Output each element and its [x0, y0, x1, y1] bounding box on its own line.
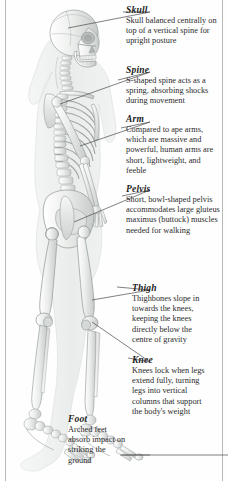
callout-spine: Spine S-shaped spine acts as a spring, a… [126, 65, 220, 107]
callout-pelvis: Pelvis Short, bowl-shaped pelvis accommo… [126, 184, 220, 236]
callout-body-knee: Knees lock when legs extend fully, turni… [132, 366, 208, 417]
callout-body-pelvis: Short, bowl-shaped pelvis accommodates l… [126, 195, 220, 236]
callout-body-skull: Skull balanced centrally on top of a ver… [126, 16, 218, 47]
callout-heading-spine: Spine [126, 65, 220, 75]
callout-body-foot: Arched feet absorb impact on striking th… [68, 425, 126, 466]
callout-heading-knee: Knee [132, 355, 208, 365]
callout-foot: Foot Arched feet absorb impact on striki… [68, 414, 126, 466]
callout-body-thigh: Thighbones slope in towards the knees, k… [132, 294, 204, 345]
callout-body-arm: Compared to ape arms, which are massive … [126, 125, 218, 176]
illustration-page: Skull Skull balanced centrally on top of… [0, 0, 228, 481]
callout-thigh: Thigh Thighbones slope in towards the kn… [132, 283, 204, 345]
callout-heading-foot: Foot [68, 414, 126, 424]
callout-skull: Skull Skull balanced centrally on top of… [126, 5, 218, 47]
callout-arm: Arm Compared to ape arms, which are mass… [126, 114, 218, 176]
callout-heading-pelvis: Pelvis [126, 184, 220, 194]
callout-heading-skull: Skull [126, 5, 218, 15]
callout-body-spine: S-shaped spine acts as a spring, absorbi… [126, 76, 220, 107]
callout-knee: Knee Knees lock when legs extend fully, … [132, 355, 208, 417]
right-margin-rule [222, 0, 223, 481]
callout-heading-arm: Arm [126, 114, 218, 124]
callout-heading-thigh: Thigh [132, 283, 204, 293]
